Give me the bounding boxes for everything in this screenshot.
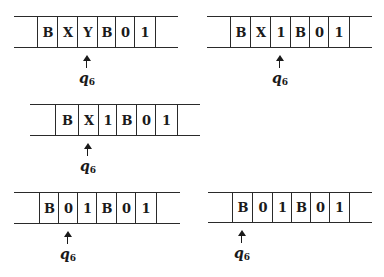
tape-cell: 1	[134, 16, 156, 48]
tape-cell: X	[78, 104, 99, 136]
tape-cell: Y	[77, 16, 98, 48]
tape-head-4: q6	[56, 231, 80, 265]
up-arrow-icon	[56, 231, 80, 245]
tape-cell: B	[116, 104, 137, 136]
up-arrow-icon	[75, 55, 99, 69]
up-arrow-icon	[230, 230, 254, 244]
tape-1: B X Y B 0 1	[14, 16, 178, 48]
tape-3: B X 1 B 0 1	[30, 104, 200, 136]
tape-cell: 1	[77, 192, 97, 224]
tape-cell: 1	[272, 192, 292, 223]
tape-cell: B	[291, 192, 311, 223]
state-label: q6	[76, 159, 100, 177]
tape-cell: B	[232, 192, 253, 223]
tape-2: B X 1 B 0 1	[207, 16, 372, 48]
tape-cell: 0	[252, 192, 273, 223]
tape-cell: 1	[135, 192, 157, 224]
tape-cell: 1	[270, 16, 291, 48]
tape-cell: X	[57, 16, 78, 48]
tape-cell: 1	[98, 104, 117, 136]
tape-cell: 1	[155, 104, 178, 136]
tape-cell: 0	[115, 16, 135, 48]
tape-cell: B	[55, 104, 79, 136]
tape-cell: B	[290, 16, 310, 48]
tape-5: B 0 1 B 0 1	[208, 192, 372, 223]
tape-cell: 0	[309, 16, 329, 48]
state-label: q6	[268, 71, 292, 89]
tape-cell: B	[37, 16, 58, 48]
tape-head-5: q6	[230, 230, 254, 264]
tape-cell: 0	[310, 192, 330, 223]
state-label: q6	[75, 71, 99, 89]
tape-cell: 0	[136, 104, 156, 136]
tape-4: B 0 1 B 0 1	[14, 192, 180, 224]
tape-cell: 0	[58, 192, 78, 224]
tape-cell: B	[39, 192, 59, 224]
tape-cell: B	[96, 192, 117, 224]
tape-head-3: q6	[76, 143, 100, 177]
up-arrow-icon	[76, 143, 100, 157]
state-label: q6	[56, 247, 80, 265]
state-label: q6	[230, 246, 254, 264]
up-arrow-icon	[268, 55, 292, 69]
tape-cell: X	[250, 16, 271, 48]
tape-cell: 1	[329, 192, 350, 223]
tape-cell: B	[97, 16, 116, 48]
tape-head-2: q6	[268, 55, 292, 89]
tape-cell: 0	[116, 192, 136, 224]
tape-head-1: q6	[75, 55, 99, 89]
tape-cell: 1	[328, 16, 350, 48]
tape-cell: B	[230, 16, 251, 48]
